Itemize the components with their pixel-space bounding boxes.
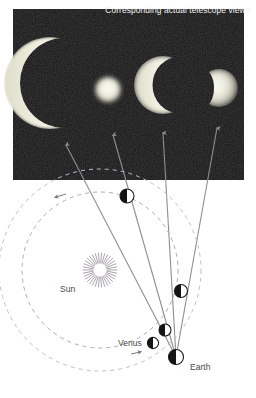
venus-position-2 xyxy=(175,285,188,298)
sun-ray xyxy=(101,253,102,263)
venus-orbit xyxy=(22,192,178,348)
venus-orbit-direction-arrow xyxy=(131,352,140,354)
venus-position-3 xyxy=(159,324,171,336)
earth-body xyxy=(169,350,184,365)
orbit-direction-arrows xyxy=(56,194,140,354)
sun-ray xyxy=(98,253,99,263)
telescope-view-1 xyxy=(4,37,96,129)
telescope-photo-panel xyxy=(4,9,244,180)
sun-ray xyxy=(101,277,102,287)
sun-icon xyxy=(83,253,117,287)
figure-canvas xyxy=(0,0,256,398)
telescope-view-4 xyxy=(200,69,238,107)
venus-position-4 xyxy=(147,337,158,348)
sun-ray xyxy=(98,277,99,287)
earth-orbit-direction-arrow xyxy=(56,194,66,197)
telescope-view-2 xyxy=(95,77,121,103)
telescope-view-3 xyxy=(134,56,192,114)
venus-position-1 xyxy=(120,189,134,203)
venus-phases-figure: Corresponding actual telescope views Sun… xyxy=(0,0,256,398)
